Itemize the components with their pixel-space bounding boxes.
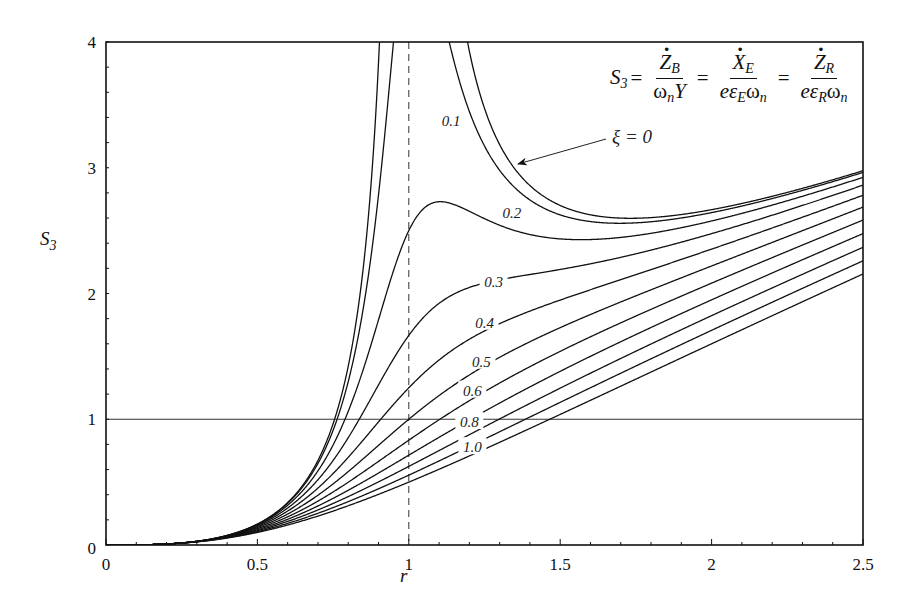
curve-label: 0.3 — [484, 274, 503, 290]
curve-label: 0.5 — [472, 354, 491, 370]
annotation-text: ξ = 0 — [612, 126, 652, 147]
x-tick-label: 2.5 — [852, 555, 873, 574]
curve-label: 1.0 — [463, 439, 482, 455]
curve-label: 0.8 — [460, 414, 479, 430]
x-axis-title: r — [400, 565, 408, 586]
y-axis-title-sub: 3 — [49, 238, 57, 253]
reference-lines — [106, 42, 863, 545]
curve-xi-0_4 — [106, 195, 863, 545]
axis-ticks — [106, 42, 863, 545]
curve-label: 0.6 — [463, 383, 482, 399]
curve-label: 0.4 — [475, 315, 494, 331]
y-tick-label: 3 — [88, 159, 97, 178]
curve-xi-0 — [441, 0, 863, 218]
formula-equals: = — [778, 66, 790, 91]
y-tick-label: 0 — [88, 539, 97, 558]
formula-fraction-1: ZB ωnY — [650, 51, 689, 105]
curve-xi-0 — [106, 0, 388, 545]
x-tick-label: 0.5 — [247, 555, 268, 574]
y-tick-label: 2 — [88, 285, 97, 304]
annotation-arrow — [518, 139, 606, 164]
plot-frame — [106, 42, 863, 545]
curve-xi-0_9 — [106, 261, 863, 545]
formula-equals: = — [697, 66, 709, 91]
formula-fraction-3: ZR eεRωn — [798, 51, 851, 105]
formula-box: S3 = ZB ωnY = XE eεEωn = ZR eεRωn — [610, 50, 856, 106]
y-tick-label: 1 — [88, 410, 97, 429]
formula-lhs: S3 — [610, 65, 628, 92]
formula-equals: = — [631, 66, 643, 91]
formula-fraction-2: XE eεEωn — [717, 51, 770, 105]
x-tick-label: 2 — [707, 555, 716, 574]
xi-zero-annotation: ξ = 0 — [518, 126, 652, 164]
tick-labels: 00.511.522.501234 — [88, 33, 874, 574]
y-axis-title: S3 — [40, 228, 57, 253]
curve-label: 0.2 — [502, 205, 521, 221]
curve-xi-0_5 — [106, 207, 863, 545]
curve-labels: 0.10.20.30.40.50.60.81.0 — [437, 111, 526, 455]
curve-label: 0.1 — [442, 113, 461, 129]
x-tick-label: 1.5 — [550, 555, 571, 574]
x-tick-label: 0 — [102, 555, 111, 574]
y-axis-title-main: S — [40, 228, 50, 249]
y-tick-label: 4 — [88, 33, 97, 52]
